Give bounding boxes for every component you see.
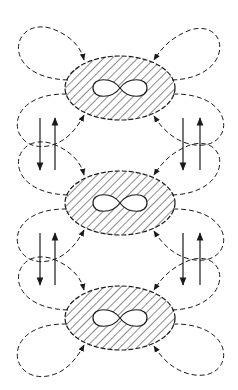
hatched-domain-ellipse — [65, 286, 175, 350]
hatched-domain-ellipse — [65, 56, 175, 120]
hatched-domain-ellipse — [65, 171, 175, 235]
domains-group — [65, 56, 175, 350]
diagram-canvas — [0, 0, 238, 390]
